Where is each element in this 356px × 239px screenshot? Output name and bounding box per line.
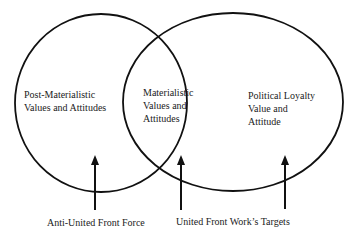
materialistic-label: Materialistic Values and Attitudes <box>143 86 194 125</box>
label-line: Post-Materialistic <box>24 88 106 101</box>
label-line: Values and <box>143 99 194 112</box>
anti-united-front-force-label: Anti-United Front Force <box>47 216 145 229</box>
united-front-targets-label: United Front Work’s Targets <box>176 215 290 228</box>
label-line: Values and Attitudes <box>24 101 106 114</box>
political-loyalty-label: Political Loyalty Value and Attitude <box>248 89 315 128</box>
label-line: Value and <box>248 102 315 115</box>
label-line: Materialistic <box>143 86 194 99</box>
label-line: Attitude <box>248 115 315 128</box>
post-materialistic-label: Post-Materialistic Values and Attitudes <box>24 88 106 114</box>
label-line: Political Loyalty <box>248 89 315 102</box>
label-line: Attitudes <box>143 112 194 125</box>
arrow-anti-force <box>91 155 99 210</box>
